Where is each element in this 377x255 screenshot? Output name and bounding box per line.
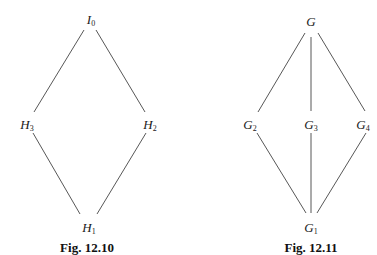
- node-G1: G1: [304, 221, 317, 236]
- node-I0: I0: [87, 13, 95, 28]
- edge-I0-H3: [34, 30, 84, 112]
- node-H2: H2: [143, 118, 156, 133]
- edge-G4-G1: [317, 133, 366, 213]
- edge-H2-H1: [97, 133, 146, 214]
- node-label: H: [143, 117, 152, 132]
- node-subscript: 1: [314, 227, 318, 236]
- node-label: G: [243, 117, 252, 132]
- node-label: G: [356, 117, 365, 132]
- edge-H3-H1: [33, 133, 80, 214]
- node-H1: H1: [82, 221, 95, 236]
- node-G: G: [306, 15, 315, 30]
- node-label: G: [304, 220, 313, 235]
- node-G3: G3: [304, 118, 317, 133]
- node-subscript: 0: [91, 19, 95, 28]
- edge-G2-G1: [257, 133, 306, 213]
- lattice-diagrams: [0, 0, 377, 255]
- node-G2: G2: [243, 118, 256, 133]
- node-G4: G4: [356, 118, 369, 133]
- edge-G-G2: [258, 33, 305, 112]
- node-subscript: 1: [92, 227, 96, 236]
- node-label: H: [20, 117, 29, 132]
- fig-12-10-edges: [33, 30, 146, 214]
- node-label: G: [304, 117, 313, 132]
- node-subscript: 3: [30, 124, 34, 133]
- node-label: H: [82, 220, 91, 235]
- edge-G-G4: [318, 33, 365, 111]
- figure-caption-12-10: Fig. 12.10: [60, 241, 114, 254]
- node-subscript: 3: [314, 124, 318, 133]
- node-label: G: [306, 14, 315, 29]
- edge-I0-H2: [96, 30, 145, 112]
- node-subscript: 2: [153, 124, 157, 133]
- node-H3: H3: [20, 118, 33, 133]
- figure-caption-12-11: Fig. 12.11: [284, 241, 337, 254]
- node-subscript: 2: [253, 124, 257, 133]
- node-subscript: 4: [366, 124, 370, 133]
